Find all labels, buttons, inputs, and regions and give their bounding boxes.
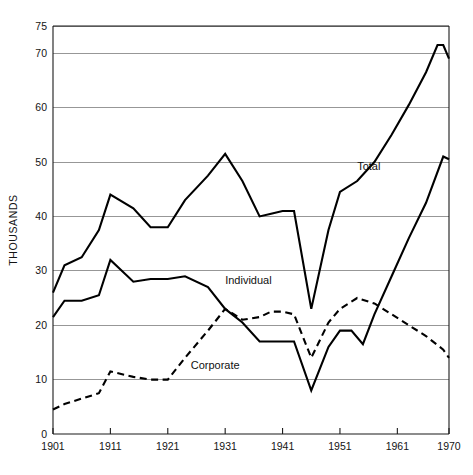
y-tick-label: 50 (35, 156, 47, 168)
y-tick-label: 20 (35, 319, 47, 331)
y-tick-label: 60 (35, 101, 47, 113)
x-tick-label: 1931 (213, 440, 237, 452)
series-line-individual (53, 298, 449, 410)
y-tick-label: 10 (35, 373, 47, 385)
y-tick-label: 75 (35, 20, 47, 32)
series-label-individual: Individual (225, 274, 271, 286)
x-axis-tick-labels: 19011911192119311941195119611970 (41, 440, 461, 452)
series-annotations: TotalIndividualCorporate (191, 160, 381, 371)
line-chart: 01020304050607075 1901191119211931194119… (0, 0, 473, 475)
y-tick-label: 0 (41, 428, 47, 440)
x-tick-label: 1901 (41, 440, 65, 452)
series-label-total: Total (357, 160, 380, 172)
y-tick-label: 40 (35, 210, 47, 222)
x-tick-label: 1970 (437, 440, 461, 452)
x-tick-label: 1951 (328, 440, 352, 452)
grid-lines (53, 26, 449, 380)
y-tick-label: 30 (35, 264, 47, 276)
x-tick-label: 1961 (386, 440, 410, 452)
series-line-total (53, 45, 449, 309)
series-label-corporate: Corporate (191, 359, 240, 371)
y-tick-label: 70 (35, 47, 47, 59)
x-axis-ticks (53, 428, 449, 434)
x-tick-label: 1921 (156, 440, 180, 452)
y-axis-tick-labels: 01020304050607075 (35, 20, 47, 440)
data-series (53, 45, 449, 409)
x-tick-label: 1911 (99, 440, 122, 452)
y-axis-title: THOUSANDS (7, 194, 19, 265)
chart-container: 01020304050607075 1901191119211931194119… (0, 0, 473, 475)
x-tick-label: 1941 (271, 440, 295, 452)
